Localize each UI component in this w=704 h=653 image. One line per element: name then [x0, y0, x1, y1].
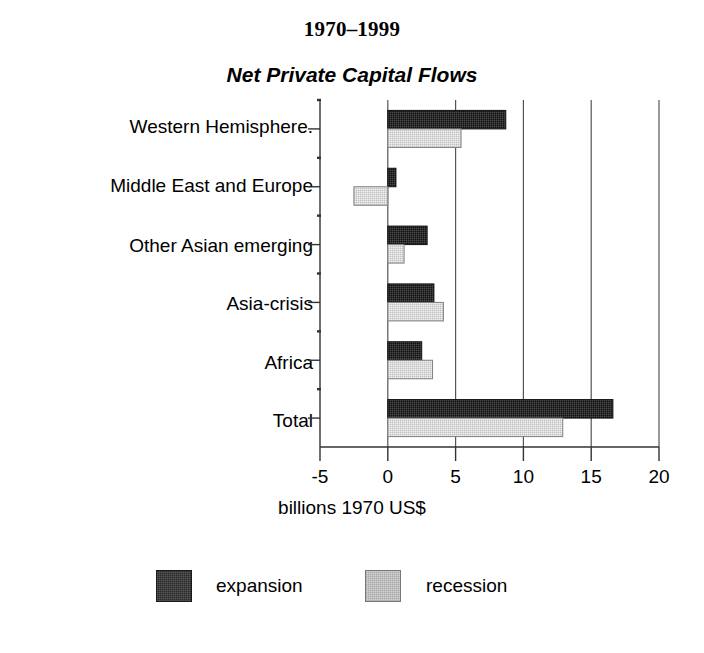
- x-axis-title: billions 1970 US$: [0, 497, 704, 519]
- x-axis-tick-0: 0: [358, 466, 418, 488]
- x-axis-tick-5: 5: [426, 466, 486, 488]
- legend-swatch-recession: [365, 570, 401, 602]
- plot-area: [0, 0, 704, 653]
- chart-figure: 1970–1999 Net Private Capital Flows West…: [0, 0, 704, 653]
- legend-label-expansion: expansion: [216, 575, 303, 597]
- x-axis-tick-20: 20: [629, 466, 689, 488]
- legend-label-recession: recession: [426, 575, 507, 597]
- x-axis-tick-neg5: -5: [290, 466, 350, 488]
- x-axis-tick-10: 10: [493, 466, 553, 488]
- legend-swatch-expansion: [156, 570, 192, 602]
- bars-layer: [354, 110, 613, 436]
- chart-legend: expansion recession: [0, 570, 704, 610]
- grid-lines: [388, 100, 659, 447]
- x-axis-tick-15: 15: [561, 466, 621, 488]
